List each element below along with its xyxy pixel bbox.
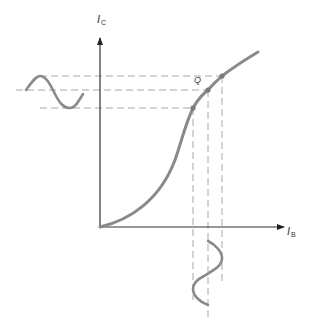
y-axis-label: IC — [97, 14, 106, 26]
y-axis-label-subscript: C — [101, 19, 106, 26]
x-axis-label-main: I — [287, 225, 290, 237]
x-axis-label: IB — [287, 226, 296, 238]
diagram-canvas — [0, 0, 314, 323]
upper-point — [219, 73, 224, 78]
q-point-label: Q — [194, 76, 201, 85]
q-point — [205, 87, 210, 92]
x-axis-label-subscript: B — [291, 231, 296, 238]
lower-point — [190, 105, 195, 110]
output-sine-wave — [26, 76, 83, 108]
transfer-curve — [100, 52, 258, 227]
y-axis-label-main: I — [97, 13, 100, 25]
